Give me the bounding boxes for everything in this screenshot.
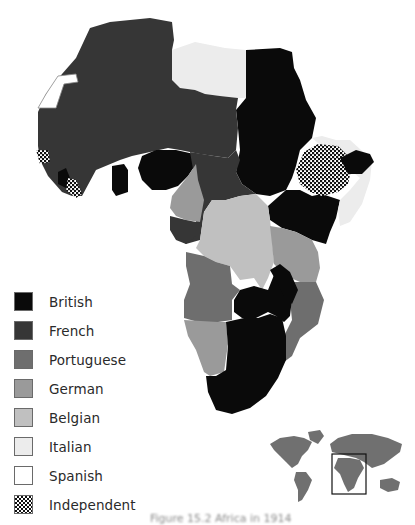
region-ethiopia[interactable] [296,144,352,196]
swatch-french [14,321,33,340]
inset-south-america [294,472,312,502]
swatch-italian [14,437,33,456]
legend-label: Portuguese [49,352,126,368]
inset-africa [334,458,364,492]
legend-item-british: British [14,287,136,316]
swatch-spanish [14,466,33,485]
legend-item-french: French [14,316,136,345]
region-german-south-west-africa [184,320,228,376]
figure-caption: Figure 15.2 Africa in 1914 [150,512,291,525]
legend-label: Independent [49,497,136,513]
swatch-belgian [14,408,33,427]
legend-label: Italian [49,439,92,455]
legend: British French Portuguese German Belgian… [14,287,136,519]
world-locator-map [268,428,408,506]
legend-label: Belgian [49,410,100,426]
swatch-british [14,292,33,311]
legend-label: British [49,294,93,310]
legend-item-german: German [14,374,136,403]
legend-label: French [49,323,94,339]
legend-item-belgian: Belgian [14,403,136,432]
legend-item-independent: Independent [14,490,136,519]
region-senegambia-patch [36,150,50,164]
legend-item-italian: Italian [14,432,136,461]
swatch-independent [14,495,33,514]
inset-australia [380,478,400,492]
legend-item-spanish: Spanish [14,461,136,490]
inset-north-america [270,436,312,468]
swatch-german [14,379,33,398]
legend-label: Spanish [49,468,103,484]
legend-item-portuguese: Portuguese [14,345,136,374]
swatch-portuguese [14,350,33,369]
region-gold-coast [112,164,128,196]
legend-label: German [49,381,104,397]
